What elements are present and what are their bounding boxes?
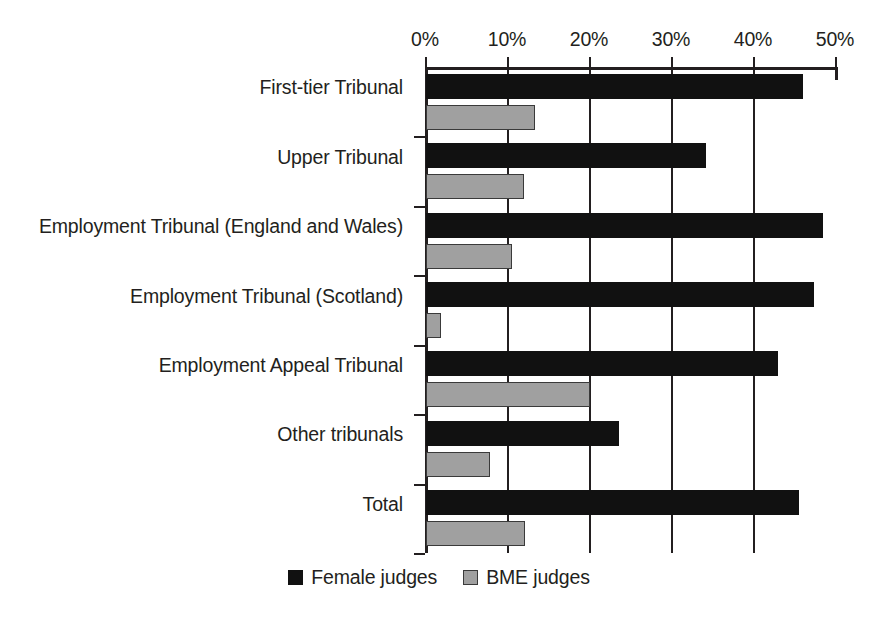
- category-axis-tick: [414, 345, 425, 347]
- category-label: Upper Tribunal: [277, 146, 403, 168]
- x-axis-tick-label: 0%: [411, 28, 439, 51]
- x-axis-tick-label: 30%: [652, 28, 690, 51]
- bar-group: [426, 67, 838, 136]
- bar-bme-judges: [426, 174, 524, 199]
- x-axis-tick-label: 10%: [488, 28, 526, 51]
- bar-female-judges: [426, 351, 778, 376]
- bar-group: [426, 136, 838, 205]
- bar-bme-judges: [426, 244, 512, 269]
- bar-female-judges: [426, 213, 823, 238]
- category-axis-tick: [414, 484, 425, 486]
- legend-item-bme-judges: BME judges: [463, 566, 590, 589]
- category-axis-tick: [414, 414, 425, 416]
- x-axis-tick-label: 40%: [734, 28, 772, 51]
- category-axis-tick: [414, 553, 425, 555]
- legend-item-female-judges: Female judges: [288, 566, 437, 589]
- category-axis-tick: [414, 136, 425, 138]
- bar-female-judges: [426, 143, 706, 168]
- bar-group: [426, 275, 838, 344]
- bar-bme-judges: [426, 452, 490, 477]
- category-axis-tick: [414, 275, 425, 277]
- category-label: First-tier Tribunal: [260, 76, 403, 98]
- chart-figure: 0%10%20%30%40%50% First-tier TribunalUpp…: [0, 0, 878, 626]
- bar-female-judges: [426, 421, 619, 446]
- category-label: Employment Appeal Tribunal: [159, 354, 403, 376]
- category-label: Total: [363, 493, 403, 515]
- bar-group: [426, 414, 838, 483]
- x-axis-tick-label: 20%: [570, 28, 608, 51]
- bar-group: [426, 345, 838, 414]
- category-axis-tick: [414, 206, 425, 208]
- category-label: Employment Tribunal (England and Wales): [39, 215, 403, 237]
- legend-label-bme-judges: BME judges: [486, 566, 590, 589]
- bar-bme-judges: [426, 313, 441, 338]
- chart-legend: Female judges BME judges: [0, 566, 878, 589]
- x-axis-tick-label: 50%: [816, 28, 854, 51]
- plot-area: [425, 67, 835, 553]
- bar-group: [426, 484, 838, 553]
- bar-female-judges: [426, 282, 814, 307]
- x-axis-tick-labels: 0%10%20%30%40%50%: [0, 28, 878, 56]
- legend-label-female-judges: Female judges: [311, 566, 437, 589]
- category-axis-labels: First-tier TribunalUpper TribunalEmploym…: [0, 67, 414, 553]
- bar-bme-judges: [426, 521, 525, 546]
- black-square-icon: [288, 570, 303, 585]
- bar-female-judges: [426, 490, 799, 515]
- category-label: Employment Tribunal (Scotland): [130, 285, 403, 307]
- bar-group: [426, 206, 838, 275]
- bar-female-judges: [426, 74, 803, 99]
- category-label: Other tribunals: [277, 423, 403, 445]
- grey-square-icon: [463, 570, 478, 585]
- bar-bme-judges: [426, 382, 590, 407]
- bar-bme-judges: [426, 105, 535, 130]
